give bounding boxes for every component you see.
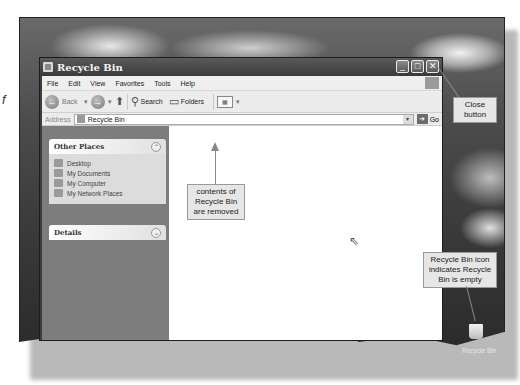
link-my-network-places[interactable]: My Network Places xyxy=(54,188,161,198)
my-computer-icon xyxy=(54,179,63,187)
back-dropdown-icon[interactable]: ▾ xyxy=(84,98,88,106)
forward-dropdown-icon[interactable]: ▾ xyxy=(108,98,112,106)
up-folder-icon[interactable]: ⬆ xyxy=(115,95,124,108)
menu-favorites[interactable]: Favorites xyxy=(110,80,149,87)
desktop-recycle-bin-label[interactable]: Recycle Bin xyxy=(462,347,496,354)
address-label: Address xyxy=(42,116,74,123)
back-arrow-icon[interactable]: ← xyxy=(45,95,59,109)
details-header[interactable]: Details ⌄ xyxy=(49,225,166,240)
address-bar: Address Recycle Bin ▾ ➔ Go xyxy=(42,113,442,126)
other-places-panel: Other Places ⌃ Desktop My Documents My C… xyxy=(49,139,166,204)
address-dropdown-icon[interactable]: ▾ xyxy=(403,115,413,124)
menu-file[interactable]: File xyxy=(42,80,63,87)
menu-tools[interactable]: Tools xyxy=(149,80,175,87)
link-my-computer[interactable]: My Computer xyxy=(54,178,161,188)
details-panel: Details ⌄ xyxy=(49,225,166,240)
views-icon[interactable]: ▦ xyxy=(217,96,233,108)
window-title: Recycle Bin xyxy=(57,62,123,73)
callout-contents-removed: contents of Recycle Bin are removed xyxy=(187,184,245,220)
address-input[interactable]: Recycle Bin ▾ xyxy=(74,114,414,125)
my-network-places-icon xyxy=(54,189,63,197)
my-documents-icon xyxy=(54,169,63,177)
go-label: Go xyxy=(430,116,439,123)
minimize-button[interactable]: _ xyxy=(396,60,409,73)
mouse-pointer-icon: ⇖ xyxy=(349,234,359,248)
forward-arrow-icon[interactable]: → xyxy=(91,95,105,109)
recycle-bin-icon xyxy=(43,62,53,72)
menu-bar: File Edit View Favorites Tools Help xyxy=(42,76,442,91)
address-value: Recycle Bin xyxy=(88,116,125,123)
search-icon[interactable]: ⚲ xyxy=(131,95,139,108)
page-text-fragment: f xyxy=(2,92,6,107)
recycle-bin-small-icon xyxy=(77,115,85,123)
title-bar[interactable]: Recycle Bin _ □ ✕ xyxy=(40,58,442,76)
callout-close-button: Close button xyxy=(453,97,497,123)
desktop-recycle-bin-icon[interactable] xyxy=(469,324,483,339)
search-button-label[interactable]: Search xyxy=(141,98,163,105)
link-desktop[interactable]: Desktop xyxy=(54,158,161,168)
menu-edit[interactable]: Edit xyxy=(63,80,85,87)
callout-arrowhead xyxy=(211,142,219,151)
maximize-button[interactable]: □ xyxy=(411,60,424,73)
caption-buttons: _ □ ✕ xyxy=(396,60,439,73)
file-list-area[interactable]: ⇖ xyxy=(169,126,442,340)
toolbar-separator xyxy=(127,94,128,110)
collapse-chevron-icon[interactable]: ⌃ xyxy=(151,142,161,152)
callout-bin-empty: Recycle Bin icon indicates Recycle Bin i… xyxy=(423,252,497,288)
other-places-links: Desktop My Documents My Computer My Netw… xyxy=(49,154,166,204)
link-label: My Documents xyxy=(67,170,110,177)
details-title: Details xyxy=(54,228,82,237)
go-arrow-icon: ➔ xyxy=(417,114,428,124)
menu-help[interactable]: Help xyxy=(176,80,200,87)
link-label: My Network Places xyxy=(67,190,123,197)
close-button[interactable]: ✕ xyxy=(426,60,439,73)
other-places-header[interactable]: Other Places ⌃ xyxy=(49,139,166,154)
other-places-title: Other Places xyxy=(54,142,104,151)
link-label: My Computer xyxy=(67,180,106,187)
toolbar-separator xyxy=(213,94,214,110)
menu-view[interactable]: View xyxy=(85,80,110,87)
link-my-documents[interactable]: My Documents xyxy=(54,168,161,178)
go-button[interactable]: ➔ Go xyxy=(414,114,442,124)
folders-button-label[interactable]: Folders xyxy=(181,98,204,105)
expand-chevron-icon[interactable]: ⌄ xyxy=(151,228,161,238)
views-dropdown-icon[interactable]: ▾ xyxy=(236,98,240,106)
task-pane: Other Places ⌃ Desktop My Documents My C… xyxy=(42,126,169,340)
folders-icon[interactable]: ▭ xyxy=(169,95,179,108)
back-button-label[interactable]: Back xyxy=(62,98,78,105)
callout-arrow xyxy=(215,150,216,184)
windows-logo-icon xyxy=(425,77,439,89)
standard-toolbar: ← Back ▾ → ▾ ⬆ ⚲ Search ▭ Folders ▦ ▾ xyxy=(42,91,442,113)
link-label: Desktop xyxy=(67,160,91,167)
desktop-icon xyxy=(54,159,63,167)
